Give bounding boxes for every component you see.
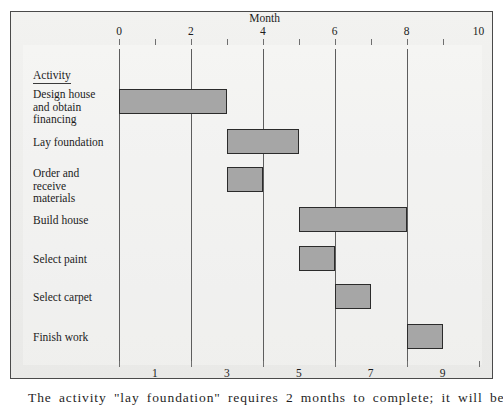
top-axis-label-2: 2 [171,25,211,38]
gantt-bar-5[interactable] [299,246,335,271]
gantt-bar-4[interactable] [299,207,407,232]
gridline-month-6 [335,49,336,361]
top-tick-3 [227,39,228,45]
bottom-tick-4 [263,361,264,367]
activity-label-line: materials [33,192,125,205]
activity-label-line: financing [33,113,125,126]
top-tick-1 [155,39,156,45]
gantt-figure-frame: Month Month 024681013579 Activity Design… [10,11,493,379]
bottom-tick-0 [119,361,120,367]
bottom-axis-label-3: 3 [207,367,247,379]
top-tick-5 [299,39,300,45]
bottom-axis-label-9: 9 [423,367,463,379]
top-tick-6 [335,39,336,45]
axis-title-top: Month [225,12,305,24]
top-tick-0 [119,39,120,45]
gantt-bar-7[interactable] [407,324,443,349]
activity-label-2: Lay foundation [33,136,125,149]
bottom-tick-6 [335,361,336,367]
top-tick-4 [263,39,264,45]
activity-column-header: Activity [33,68,71,84]
activity-label-line: Lay foundation [33,136,125,149]
bottom-tick-8 [407,361,408,367]
activity-label-4: Build house [33,214,125,227]
top-tick-8 [407,39,408,45]
activity-label-line: Select carpet [33,291,125,304]
top-axis-label-10: 10 [459,25,494,38]
activity-label-line: Select paint [33,253,125,266]
gridline-month-8 [407,49,408,361]
gantt-bar-3[interactable] [227,167,263,192]
top-axis-label-8: 8 [387,25,427,38]
activity-label-7: Finish work [33,331,125,344]
gantt-bar-2[interactable] [227,129,299,154]
gantt-bar-6[interactable] [335,284,371,309]
figure-page: Month Month 024681013579 Activity Design… [0,0,503,411]
top-tick-2 [191,39,192,45]
gantt-bar-1[interactable] [119,89,227,114]
bottom-axis-label-5: 5 [279,367,319,379]
top-tick-7 [371,39,372,45]
caption-strip: The activity "lay foundation" requires 2… [0,392,503,411]
activity-label-1: Design houseand obtainfinancing [33,88,125,126]
chart-plot-area: Month Month 024681013579 Activity Design… [11,12,493,379]
activity-label-line: and obtain [33,101,125,114]
activity-label-line: Build house [33,214,125,227]
gridline-month-4 [263,49,264,361]
activity-label-line: Finish work [33,331,125,344]
activity-label-5: Select paint [33,253,125,266]
bottom-tick-2 [191,361,192,367]
activity-label-line: receive [33,180,125,193]
bottom-tick-10 [479,361,480,367]
caption-text: The activity "lay foundation" requires 2… [28,392,498,406]
top-axis-label-0: 0 [99,25,139,38]
top-axis-label-6: 6 [315,25,355,38]
top-tick-9 [443,39,444,45]
bottom-axis-label-1: 1 [135,367,175,379]
activity-label-line: Design house [33,88,125,101]
top-axis-label-4: 4 [243,25,283,38]
bottom-axis-label-7: 7 [351,367,391,379]
activity-label-6: Select carpet [33,291,125,304]
activity-label-line: Order and [33,167,125,180]
activity-label-3: Order andreceivematerials [33,167,125,205]
